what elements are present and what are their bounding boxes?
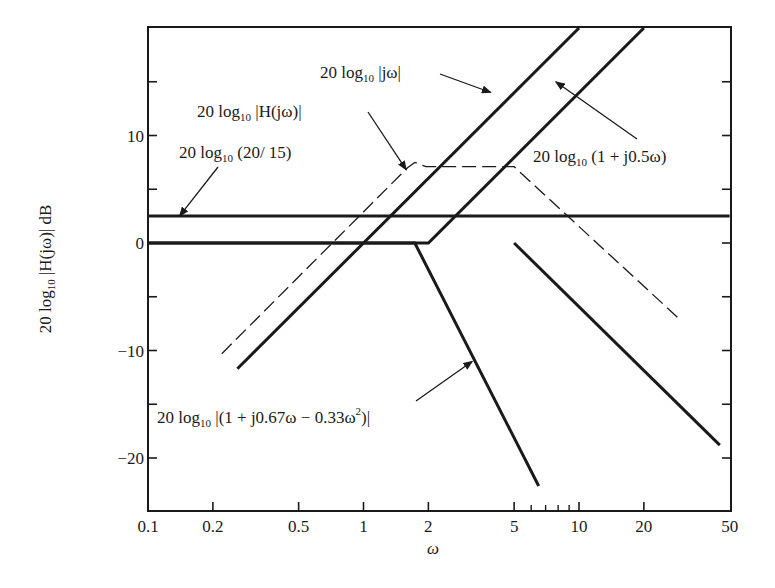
series-line [148,243,539,486]
x-tick-label: 0.2 [202,517,223,536]
series-line [237,28,579,369]
x-tick-label: 50 [721,517,738,536]
x-axis-label: ω [427,539,439,558]
x-tick-label: 1 [359,517,368,536]
annotation-arrow [368,112,406,170]
annotation-pole: 20 log10 (1 + j0.5ω) [533,147,666,168]
x-tick-labels: 0.10.20.5125102050 [137,517,738,536]
series-line [514,243,720,445]
y-tick-label: −20 [117,449,144,468]
x-tick-label: 2 [424,517,433,536]
y-tick-label: 10 [127,127,144,146]
annotation-quadratic: 20 log10 |(1 + j0.67ω − 0.33ω2)| [157,405,370,429]
x-tick-label: 0.1 [137,517,158,536]
series-line [222,162,679,353]
annotation-arrows [179,74,637,401]
x-tick-label: 0.5 [288,517,309,536]
x-tick-label: 5 [510,517,519,536]
annotation-arrow [179,167,218,216]
y-tick-labels: −20−10010 [117,127,144,469]
annotation-arrow [416,361,472,401]
x-tick-label: 20 [635,517,652,536]
annotation-arrow [440,74,491,93]
y-tick-label: 0 [136,234,145,253]
annotation-gain: 20 log10 (20/ 15) [179,143,292,164]
y-axis-label: 20 log10 |H(jω)| dB [36,205,57,334]
plot-frame [148,27,731,511]
y-tick-label: −10 [117,342,144,361]
x-tick-label: 10 [571,517,588,536]
annotation-H: 20 log10 |H(jω)| [197,102,302,123]
annotation-jw: 20 log10 |jω| [320,63,401,84]
bode-magnitude-chart: −20−10010 0.10.20.5125102050 ω 20 log10 … [0,0,775,588]
annotation-arrow [556,82,637,139]
